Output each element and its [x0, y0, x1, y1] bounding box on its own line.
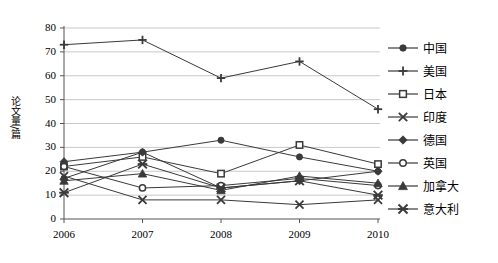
legend-label: 中国	[420, 39, 447, 56]
y-tick-label: 10	[28, 188, 56, 200]
legend-label: 加拿大	[420, 177, 459, 194]
legend-item[interactable]: 意大利	[386, 197, 494, 220]
data-point	[138, 160, 148, 169]
data-point	[373, 191, 383, 200]
x-tick-label: 2006	[40, 228, 88, 240]
legend-marker	[398, 204, 408, 213]
data-point	[61, 163, 67, 169]
legend-label: 英国	[420, 154, 447, 171]
legend-marker-icon	[386, 177, 420, 195]
x-tick-label: 2010	[354, 228, 402, 240]
legend-item[interactable]: 英国	[386, 151, 494, 174]
data-point	[217, 74, 225, 82]
data-point	[60, 41, 68, 49]
legend-item[interactable]: 中国	[386, 36, 494, 59]
legend-marker-icon	[386, 131, 420, 149]
legend-marker-icon	[386, 200, 420, 218]
y-tick-label: 50	[28, 93, 56, 105]
legend-marker-icon	[386, 85, 420, 103]
legend-label: 德国	[420, 131, 447, 148]
legend-marker	[400, 90, 407, 97]
x-tick-label: 2009	[276, 228, 324, 240]
data-point	[296, 142, 302, 148]
data-point	[139, 185, 145, 191]
legend-marker	[400, 159, 407, 166]
chart-legend: 中国美国日本印度德国英国加拿大意大利	[386, 36, 494, 220]
legend-label: 印度	[420, 108, 447, 125]
data-point	[218, 137, 224, 143]
legend-marker	[399, 66, 408, 75]
y-tick-label: 40	[28, 117, 56, 129]
legend-item[interactable]: 加拿大	[386, 174, 494, 197]
y-tick-label: 0	[28, 212, 56, 224]
legend-item[interactable]: 美国	[386, 59, 494, 82]
data-point	[295, 57, 303, 65]
legend-marker	[400, 44, 407, 51]
y-tick-label: 30	[28, 140, 56, 152]
x-tick-label: 2007	[119, 228, 167, 240]
y-tick-label: 20	[28, 164, 56, 176]
legend-item[interactable]: 印度	[386, 105, 494, 128]
x-tick-label: 2008	[197, 228, 245, 240]
legend-marker-icon	[386, 62, 420, 80]
data-point	[374, 105, 382, 113]
chart-container: 论文量/篇 0102030405060708020062007200820092…	[0, 0, 498, 263]
legend-marker-icon	[386, 108, 420, 126]
data-point	[374, 167, 382, 175]
data-point	[296, 154, 302, 160]
y-tick-label: 70	[28, 45, 56, 57]
data-point	[138, 36, 146, 44]
legend-marker-icon	[386, 154, 420, 172]
series-line	[64, 145, 378, 174]
legend-item[interactable]: 德国	[386, 128, 494, 151]
legend-marker	[399, 135, 407, 143]
y-tick-label: 80	[28, 21, 56, 33]
data-point	[218, 170, 224, 176]
legend-item[interactable]: 日本	[386, 82, 494, 105]
legend-label: 日本	[420, 85, 447, 102]
data-point	[375, 161, 381, 167]
series-1	[60, 36, 382, 114]
legend-label: 美国	[420, 62, 447, 79]
legend-marker-icon	[386, 39, 420, 57]
y-tick-label: 60	[28, 69, 56, 81]
legend-label: 意大利	[420, 200, 459, 217]
data-point	[138, 169, 146, 177]
